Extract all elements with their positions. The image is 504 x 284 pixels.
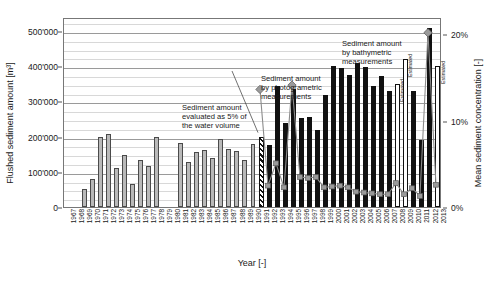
bar-2011 bbox=[419, 140, 424, 207]
bar-1999 bbox=[323, 95, 328, 207]
y-axis-left-tick bbox=[58, 32, 62, 33]
y-axis-left-labels: 0100'000200'000300'000400'000500'000 bbox=[18, 15, 62, 215]
x-axis-label-2012: 2012 bbox=[432, 209, 440, 223]
x-axis-label-1993: 1993 bbox=[279, 209, 287, 223]
bar-2012 bbox=[427, 28, 432, 207]
bar-1990 bbox=[251, 144, 256, 207]
x-axis-label-1972: 1972 bbox=[110, 209, 118, 223]
x-axis-labels: 1967196819691970197119721973197419751976… bbox=[63, 209, 441, 255]
bar-1996 bbox=[299, 118, 304, 207]
x-axis-label-1978: 1978 bbox=[158, 209, 166, 223]
y-axis-left-tick bbox=[58, 208, 62, 209]
x-axis-label-1967: 1967 bbox=[70, 209, 78, 223]
x-axis-label-1979: 1979 bbox=[166, 209, 174, 223]
bar-1998 bbox=[315, 130, 320, 207]
bar-1981 bbox=[178, 143, 183, 207]
x-axis-label-1987: 1987 bbox=[230, 209, 238, 223]
bar-1969 bbox=[82, 189, 87, 207]
bar-1971 bbox=[98, 137, 103, 207]
bar-1972 bbox=[106, 134, 111, 207]
x-axis-label-1973: 1973 bbox=[118, 209, 126, 223]
x-axis-label-1969: 1969 bbox=[86, 209, 94, 223]
x-axis-label-1990: 1990 bbox=[255, 209, 263, 223]
x-axis-label-1968: 1968 bbox=[78, 209, 86, 223]
y-axis-right-tick-label: 0% bbox=[451, 203, 463, 213]
x-axis-label-1980: 1980 bbox=[174, 209, 182, 223]
x-axis-label-1970: 1970 bbox=[94, 209, 102, 223]
x-axis-label-2011: 2011 bbox=[423, 209, 431, 223]
bar-1976 bbox=[138, 160, 143, 208]
y-axis-right-title-text: Mean sediment concentration [-] bbox=[473, 59, 483, 188]
bar-2006 bbox=[379, 76, 384, 207]
annotation-five-percent: Sediment amount evaluated as 5% of the w… bbox=[182, 103, 247, 131]
bar-1994 bbox=[283, 123, 288, 207]
bar-1993 bbox=[275, 86, 280, 207]
bar-1983 bbox=[194, 152, 199, 207]
bar-1975 bbox=[130, 184, 135, 207]
bar-2003 bbox=[355, 63, 360, 207]
y-axis-left-tick bbox=[58, 137, 62, 138]
y-axis-left-tick-label: 500'000 bbox=[28, 27, 58, 37]
bar-1978 bbox=[154, 137, 159, 207]
bar-1988 bbox=[234, 151, 239, 207]
bar-1991 bbox=[259, 137, 264, 207]
bar-1986 bbox=[218, 139, 223, 207]
x-axis-label-1999: 1999 bbox=[327, 209, 335, 223]
x-axis-label-1977: 1977 bbox=[150, 209, 158, 223]
bar-2004 bbox=[363, 67, 368, 207]
x-axis-label-1997: 1997 bbox=[311, 209, 319, 223]
bar-2013 bbox=[435, 66, 440, 207]
x-axis-label-1991: 1991 bbox=[263, 209, 271, 223]
bar-1985 bbox=[210, 158, 215, 207]
x-axis-label-1988: 1988 bbox=[239, 209, 247, 223]
bar-2009 bbox=[403, 59, 408, 207]
y-axis-right-tick-label: 10% bbox=[451, 117, 468, 127]
bar-1982 bbox=[186, 162, 191, 207]
bar-2001 bbox=[339, 68, 344, 207]
annotation-photogrametric: Sediment amount by photogrametric measur… bbox=[261, 74, 322, 102]
y-axis-left-tick-label: 400'000 bbox=[28, 62, 58, 72]
x-axis-label-1971: 1971 bbox=[102, 209, 110, 223]
y-axis-left-tick-label: 100'000 bbox=[28, 168, 58, 178]
x-axis-label-2000: 2000 bbox=[335, 209, 343, 223]
estimated-label-2009: Estimated bbox=[407, 54, 413, 77]
bar-1973 bbox=[114, 168, 119, 207]
x-axis-label-1976: 1976 bbox=[142, 209, 150, 223]
bar-1997 bbox=[307, 117, 312, 207]
x-axis-label-2013: 2013 bbox=[440, 209, 448, 223]
bar-2005 bbox=[371, 86, 376, 207]
x-axis-label-2001: 2001 bbox=[343, 209, 351, 223]
x-axis-label-1981: 1981 bbox=[182, 209, 190, 223]
bar-1977 bbox=[146, 166, 151, 207]
y-axis-left-title: Flushed sediment amount [m³] bbox=[2, 28, 18, 218]
bar-1992 bbox=[267, 145, 272, 207]
x-axis-label-2003: 2003 bbox=[359, 209, 367, 223]
x-axis-label-1998: 1998 bbox=[319, 209, 327, 223]
bar-1989 bbox=[242, 160, 247, 207]
x-axis-label-1994: 1994 bbox=[287, 209, 295, 223]
y-axis-left-tick bbox=[58, 102, 62, 103]
y-axis-right-tick-label: 20% bbox=[451, 30, 468, 40]
y-axis-right-title: Mean sediment concentration [-] bbox=[470, 28, 486, 218]
bar-1974 bbox=[122, 155, 127, 207]
x-axis-label-2004: 2004 bbox=[367, 209, 375, 223]
bar-1987 bbox=[226, 149, 231, 207]
y-axis-left-tick bbox=[58, 67, 62, 68]
annotation-bathymetric: Sediment amount by bathymetric measureme… bbox=[342, 39, 402, 67]
bar-1970 bbox=[90, 179, 95, 208]
y-axis-right-tick bbox=[443, 121, 447, 122]
bar-1995 bbox=[291, 89, 296, 207]
x-axis-label-1992: 1992 bbox=[271, 209, 279, 223]
bar-2002 bbox=[347, 75, 352, 207]
x-axis-label-2002: 2002 bbox=[351, 209, 359, 223]
y-axis-right-tick bbox=[443, 35, 447, 36]
x-axis-label-1996: 1996 bbox=[303, 209, 311, 223]
y-axis-left-tick-label: 300'000 bbox=[28, 97, 58, 107]
x-axis-label-1974: 1974 bbox=[126, 209, 134, 223]
bar-1984 bbox=[202, 150, 207, 207]
bar-2010 bbox=[411, 91, 416, 207]
x-axis-label-1989: 1989 bbox=[247, 209, 255, 223]
chart-root: Flushed sediment amount [m³] 0100'000200… bbox=[0, 0, 504, 284]
y-axis-left-tick-label: 200'000 bbox=[28, 133, 58, 143]
plot-area: EstimatedEstimatedEstimated Sediment amo… bbox=[63, 18, 441, 208]
